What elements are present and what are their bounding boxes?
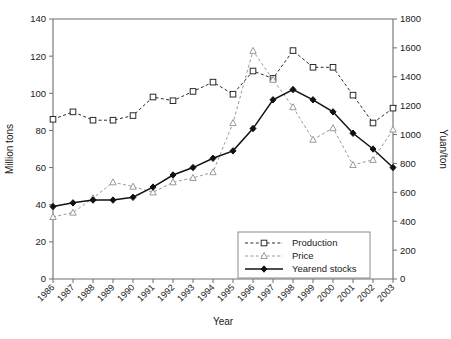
y-axis-tick-label: 100 — [30, 88, 46, 99]
data-point — [230, 120, 236, 126]
x-axis-tick-label: 1987 — [55, 282, 76, 303]
data-point — [110, 117, 116, 123]
x-axis-tick-label: 1993 — [175, 282, 196, 303]
x-axis-tick-label: 1994 — [195, 282, 216, 303]
chart-legend[interactable]: ProductionPriceYearend stocks — [238, 232, 370, 278]
y2-axis-tick-label: 600 — [400, 187, 416, 198]
data-point — [330, 64, 336, 70]
y2-axis-tick-label: 1600 — [400, 42, 421, 53]
y-axis-title: Million tons — [4, 124, 15, 174]
y-axis-tick-label: 120 — [30, 51, 46, 62]
series-line — [53, 51, 393, 123]
y2-axis-tick-label: 1000 — [400, 129, 421, 140]
data-point — [70, 109, 76, 115]
data-point — [210, 155, 216, 161]
axes: 0204060801001201400200400600800100012001… — [4, 13, 449, 327]
y2-axis-title: Yuan/ton — [438, 129, 449, 168]
data-point — [250, 68, 256, 74]
x-axis-tick-label: 1988 — [75, 282, 96, 303]
x-axis-tick-label: 1997 — [255, 282, 276, 303]
x-axis-tick-label: 2002 — [355, 282, 376, 303]
data-point — [210, 79, 216, 85]
y-axis-tick-label: 20 — [35, 236, 46, 247]
data-point — [90, 117, 96, 123]
data-point — [310, 136, 316, 142]
series-price — [50, 47, 396, 219]
legend-label: Price — [292, 250, 314, 261]
data-point — [190, 89, 196, 95]
x-axis-tick-label: 1992 — [155, 282, 176, 303]
data-point — [350, 92, 356, 98]
y-axis-tick-label: 40 — [35, 199, 46, 210]
x-axis-tick-label: 1989 — [95, 282, 116, 303]
x-axis-tick-label: 1998 — [275, 282, 296, 303]
x-axis-tick-label: 1990 — [115, 282, 136, 303]
data-point — [310, 64, 316, 70]
y2-axis-tick-label: 0 — [400, 273, 405, 284]
y-axis-tick-label: 80 — [35, 125, 46, 136]
legend-label: Production — [292, 237, 337, 248]
x-axis-tick-label: 1991 — [135, 282, 156, 303]
legend-swatch-marker — [261, 240, 267, 246]
data-point — [290, 86, 296, 92]
data-point — [110, 179, 116, 185]
x-axis-tick-label: 2003 — [375, 282, 396, 303]
data-point — [150, 94, 156, 100]
data-series — [50, 47, 396, 219]
chart-figure: 0204060801001201400200400600800100012001… — [0, 0, 451, 339]
data-point — [50, 116, 56, 122]
y2-axis-tick-label: 400 — [400, 216, 416, 227]
y2-axis-tick-label: 800 — [400, 158, 416, 169]
data-point — [190, 164, 196, 170]
x-axis-tick-label: 2001 — [335, 282, 356, 303]
data-point — [130, 113, 136, 119]
data-point — [130, 194, 136, 200]
data-point — [170, 172, 176, 178]
x-axis-tick-label: 1996 — [235, 282, 256, 303]
line-chart: 0204060801001201400200400600800100012001… — [0, 0, 451, 339]
y2-axis-tick-label: 1400 — [400, 71, 421, 82]
y-axis-tick-label: 0 — [41, 273, 46, 284]
legend-label: Yearend stocks — [292, 263, 357, 274]
y2-axis-tick-label: 200 — [400, 245, 416, 256]
data-point — [390, 126, 396, 132]
series-line — [53, 51, 393, 217]
y2-axis-tick-label: 1800 — [400, 13, 421, 24]
y2-axis-tick-label: 1200 — [400, 100, 421, 111]
data-point — [210, 169, 216, 175]
x-axis-title: Year — [213, 316, 234, 327]
data-point — [70, 209, 76, 215]
data-point — [370, 120, 376, 126]
x-axis-tick-label: 1995 — [215, 282, 236, 303]
data-point — [230, 91, 236, 97]
data-point — [290, 48, 296, 54]
data-point — [370, 156, 376, 162]
data-point — [390, 105, 396, 111]
data-point — [330, 125, 336, 131]
x-axis-tick-label: 1986 — [35, 282, 56, 303]
y-axis-tick-label: 60 — [35, 162, 46, 173]
data-point — [310, 97, 316, 103]
data-point — [250, 47, 256, 53]
x-axis-tick-label: 2000 — [315, 282, 336, 303]
data-point — [170, 98, 176, 104]
series-production — [50, 48, 396, 126]
data-point — [110, 197, 116, 203]
x-axis-tick-label: 1999 — [295, 282, 316, 303]
data-point — [150, 184, 156, 190]
data-point — [70, 200, 76, 206]
y-axis-tick-label: 140 — [30, 13, 46, 24]
